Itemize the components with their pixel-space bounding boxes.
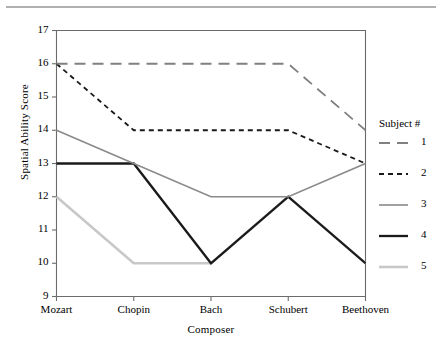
y-tick-label: 14 <box>13 122 49 134</box>
series-line-1 <box>57 64 366 131</box>
legend-label-4: 4 <box>421 228 427 240</box>
legend-label-3: 3 <box>421 197 427 209</box>
series-line-4 <box>57 164 366 264</box>
y-tick-label: 16 <box>13 56 49 68</box>
y-tick-label: 10 <box>13 255 49 267</box>
x-axis-title: Composer <box>56 323 366 335</box>
y-tick-label: 9 <box>13 289 49 301</box>
y-tick-label: 17 <box>13 23 49 35</box>
y-tick-label: 12 <box>13 189 49 201</box>
legend-title: Subject # <box>379 117 420 129</box>
y-tick-label: 15 <box>13 89 49 101</box>
legend-label-2: 2 <box>421 166 427 178</box>
legend-label-1: 1 <box>421 135 427 147</box>
y-tick-label: 11 <box>13 222 49 234</box>
y-tick-label: 13 <box>13 156 49 168</box>
legend-label-5: 5 <box>421 259 427 271</box>
series-line-5 <box>57 197 366 264</box>
x-tick-label: Beethoven <box>321 303 411 315</box>
line-chart-plot <box>0 0 442 354</box>
series-line-2 <box>57 64 366 164</box>
chart-figure: Spatial Ability Score Composer Subject #… <box>0 0 442 354</box>
